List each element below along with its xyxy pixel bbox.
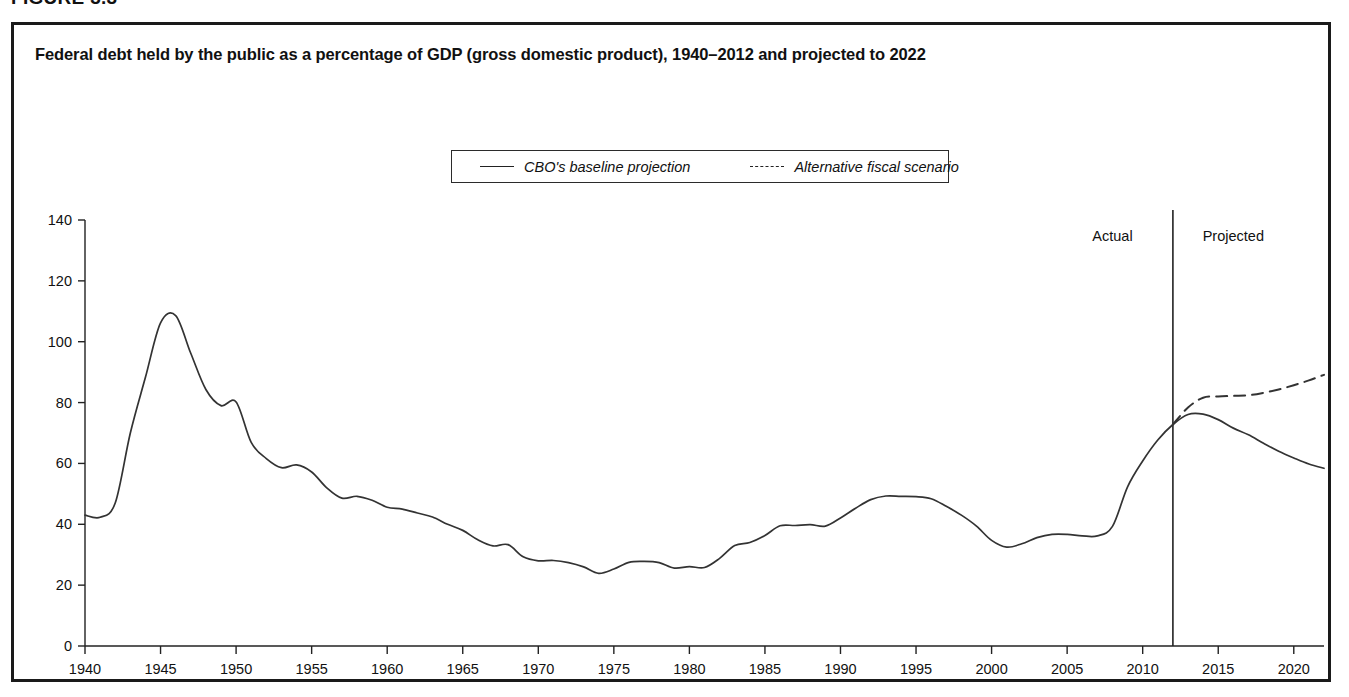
x-axis: 1940194519501955196019651970197519801985… bbox=[69, 646, 1324, 677]
y-axis: 020406080100120140 bbox=[48, 212, 85, 654]
x-axis-tick-label: 1975 bbox=[598, 661, 630, 677]
x-axis-tick-label: 1940 bbox=[69, 661, 101, 677]
series-line-alternative-fiscal-scenario bbox=[1173, 375, 1324, 425]
chart-plot-area: 020406080100120140 194019451950195519601… bbox=[14, 25, 1334, 685]
x-axis-tick-label: 1945 bbox=[144, 661, 176, 677]
x-axis-tick-label: 1965 bbox=[447, 661, 479, 677]
x-axis-tick-label: 1980 bbox=[673, 661, 705, 677]
figure-number-label: FIGURE 3.3 bbox=[11, 0, 117, 9]
chart-annotations: ActualProjected bbox=[1092, 210, 1264, 646]
x-axis-tick-label: 1960 bbox=[371, 661, 403, 677]
x-axis-tick-label: 2000 bbox=[975, 661, 1007, 677]
x-axis-tick-label: 2015 bbox=[1202, 661, 1234, 677]
chart-series bbox=[85, 313, 1324, 573]
x-axis-tick-label: 2005 bbox=[1051, 661, 1083, 677]
x-axis-tick-label: 1950 bbox=[220, 661, 252, 677]
line-chart-svg: 020406080100120140 194019451950195519601… bbox=[14, 25, 1334, 685]
series-line-cbo-baseline-projection bbox=[85, 313, 1324, 573]
y-axis-tick-label: 60 bbox=[56, 455, 72, 471]
x-axis-tick-label: 1995 bbox=[900, 661, 932, 677]
x-axis-tick-label: 1990 bbox=[824, 661, 856, 677]
x-axis-tick-label: 2020 bbox=[1278, 661, 1310, 677]
y-axis-tick-label: 120 bbox=[48, 273, 72, 289]
x-axis-tick-label: 1970 bbox=[522, 661, 554, 677]
x-axis-tick-label: 2010 bbox=[1127, 661, 1159, 677]
x-axis-tick-label: 1955 bbox=[296, 661, 328, 677]
y-axis-tick-label: 40 bbox=[56, 516, 72, 532]
y-axis-tick-label: 0 bbox=[64, 638, 72, 654]
projected-label: Projected bbox=[1203, 228, 1264, 244]
y-axis-tick-label: 80 bbox=[56, 395, 72, 411]
x-axis-tick-label: 1985 bbox=[749, 661, 781, 677]
actual-label: Actual bbox=[1092, 228, 1132, 244]
y-axis-tick-label: 140 bbox=[48, 212, 72, 228]
y-axis-tick-label: 100 bbox=[48, 334, 72, 350]
y-axis-tick-label: 20 bbox=[56, 577, 72, 593]
figure-container: Federal debt held by the public as a per… bbox=[11, 22, 1331, 682]
